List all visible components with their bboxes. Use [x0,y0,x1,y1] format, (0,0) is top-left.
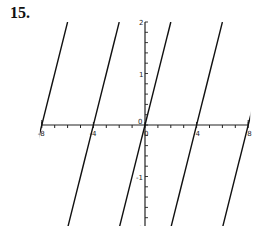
plot: -8-404821-1-20 [0,0,263,226]
y-tick-label: -1 [136,174,143,182]
x-tick-label: 4 [196,130,201,138]
line-segment [171,22,223,226]
origin-label: 0 [138,118,142,126]
y-tick-label: -2 [136,225,143,226]
line-segment [16,22,68,226]
x-tick-label: 8 [247,130,251,138]
y-tick-label: 1 [139,71,143,79]
x-tick-label: -8 [38,130,45,138]
line-segment [68,22,120,226]
y-tick-label: 2 [139,19,143,27]
x-tick-label: 0 [144,130,148,138]
line-segment [222,22,263,226]
